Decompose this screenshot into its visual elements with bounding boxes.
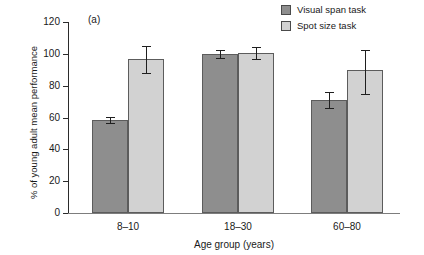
legend-item-visual-span-task: Visual span task [281,3,366,16]
error-bar-cap [216,58,225,59]
y-tick-label: 60 [49,112,60,123]
error-bar-cap [325,92,334,93]
error-bar-cap [252,47,261,48]
error-bar [329,92,330,108]
error-bar-cap [142,73,151,74]
y-tick-label: 20 [49,175,60,186]
y-tick: 120 [63,22,68,23]
plot-area: 020406080100120 8–1018–3060–80 Age group… [68,22,400,213]
y-tick-label: 120 [43,16,60,27]
error-bar [365,50,366,94]
error-bar-cap [216,50,225,51]
y-tick-label: 100 [43,48,60,59]
chart-figure: Visual span task Spot size task (a) % of… [0,0,424,255]
y-tick: 100 [63,54,68,55]
error-bar-cap [361,94,370,95]
bar [128,59,164,213]
x-tick-label: 8–10 [117,221,139,232]
y-tick: 40 [63,149,68,150]
x-axis-line [68,213,400,214]
y-tick-label: 0 [54,207,60,218]
legend-swatch-visual-span-task [281,5,291,15]
y-tick-label: 40 [49,143,60,154]
error-bar [146,46,147,73]
y-axis-line [68,22,69,213]
y-tick: 60 [63,118,68,119]
error-bar-cap [361,50,370,51]
y-tick: 0 [63,213,68,214]
bar [202,54,238,213]
bar [311,100,347,213]
y-tick-label: 80 [49,80,60,91]
bar [238,53,274,213]
legend-label-visual-span-task: Visual span task [297,5,366,15]
error-bar-cap [325,108,334,109]
error-bar [256,47,257,58]
error-bar [220,50,221,58]
y-axis-title: % of young adult mean performance [28,23,39,223]
error-bar-cap [106,117,115,118]
x-tick-label: 18–30 [224,221,252,232]
x-tick-label: 60–80 [333,221,361,232]
bar [92,120,128,213]
x-axis-title: Age group (years) [68,239,400,250]
y-tick: 20 [63,181,68,182]
y-tick: 80 [63,86,68,87]
error-bar-cap [106,123,115,124]
error-bar-cap [142,46,151,47]
error-bar-cap [252,59,261,60]
